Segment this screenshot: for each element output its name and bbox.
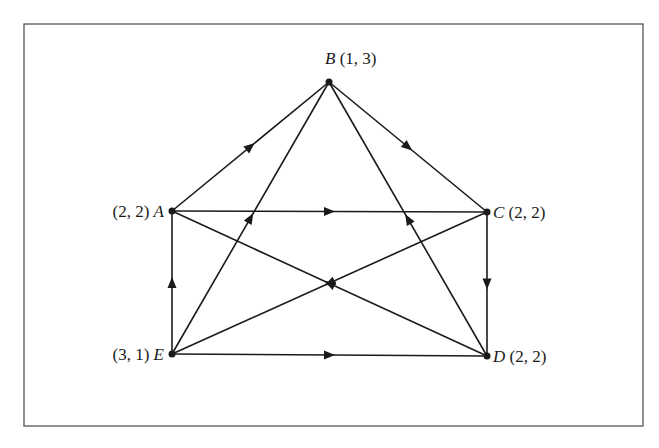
node-label-A: (2, 2) A [113, 202, 165, 221]
arrowhead-icon [168, 277, 177, 288]
node-label-E: (3, 1) E [113, 345, 165, 364]
node-C [484, 209, 491, 216]
node-label-B: B (1, 3) [325, 49, 376, 68]
arrowhead-icon [405, 214, 414, 226]
arrowhead-icon [324, 350, 335, 359]
directed-graph-diagram: (2, 2) AB (1, 3)C (2, 2)D (2, 2)(3, 1) E [0, 0, 659, 448]
edges [168, 82, 492, 359]
node-A [169, 208, 176, 215]
figure-border [24, 24, 643, 426]
node-B [326, 79, 333, 86]
arrowhead-icon [244, 213, 253, 225]
node-E [169, 351, 176, 358]
node-D [484, 353, 491, 360]
node-label-C: C (2, 2) [493, 203, 545, 222]
arrowhead-icon [324, 277, 336, 286]
arrowhead-icon [483, 279, 492, 290]
node-label-D: D (2, 2) [492, 347, 546, 366]
arrowhead-icon [324, 207, 335, 216]
